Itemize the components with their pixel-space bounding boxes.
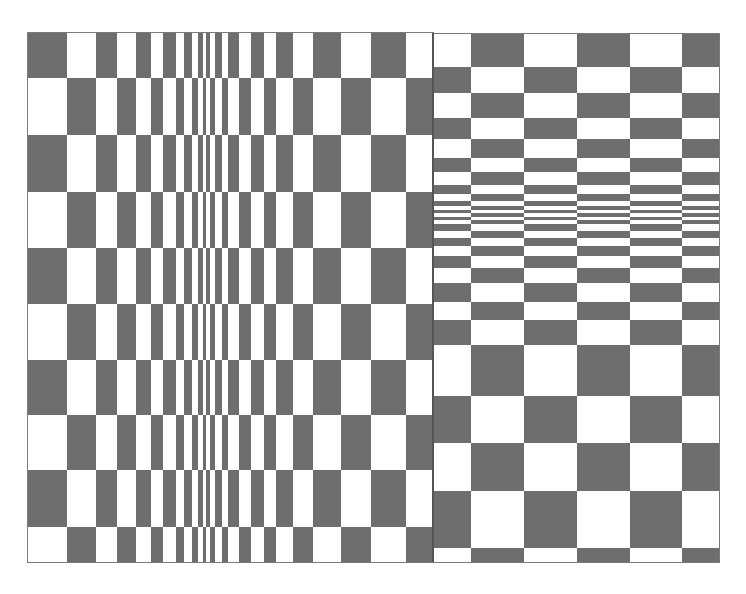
checker-cell	[117, 78, 136, 135]
right-checkerboard-panel	[433, 34, 719, 562]
checker-cell	[682, 34, 719, 67]
checker-cell	[206, 248, 210, 304]
checker-cell	[293, 415, 313, 470]
checker-cell	[682, 345, 719, 396]
checker-cell	[577, 213, 630, 217]
checker-cell	[176, 527, 184, 562]
checker-cell	[577, 220, 630, 224]
checker-cell	[67, 415, 96, 470]
checker-cell	[371, 33, 406, 78]
checker-cell	[682, 213, 719, 217]
checker-cell	[210, 192, 215, 248]
checker-cell	[471, 220, 524, 224]
checker-cell	[251, 135, 264, 192]
checker-cell	[471, 268, 524, 283]
checker-cell	[136, 135, 151, 192]
checker-cell	[184, 360, 192, 415]
checker-cell	[293, 304, 313, 360]
checker-cell	[228, 470, 239, 527]
checker-cell	[433, 256, 471, 268]
checker-cell	[192, 304, 198, 360]
checker-cell	[524, 210, 577, 213]
checker-cell	[471, 231, 524, 238]
checker-cell	[313, 135, 341, 192]
checker-cell	[239, 192, 251, 248]
checker-cell	[433, 185, 471, 194]
checker-cell	[471, 34, 524, 67]
checker-cell	[239, 304, 251, 360]
checker-cell	[524, 201, 577, 206]
checker-cell	[28, 360, 67, 415]
checker-cell	[471, 206, 524, 210]
checker-cell	[276, 248, 293, 304]
checker-cell	[630, 185, 682, 194]
checker-cell	[151, 415, 163, 470]
checker-cell	[682, 268, 719, 283]
checker-cell	[136, 33, 151, 78]
checker-cell	[222, 527, 228, 562]
checker-cell	[471, 93, 524, 118]
checker-cell	[136, 360, 151, 415]
checker-cell	[524, 396, 577, 443]
checker-cell	[577, 302, 630, 320]
checker-cell	[96, 470, 117, 527]
checker-cell	[222, 192, 228, 248]
checker-cell	[222, 78, 228, 135]
checker-cell	[433, 118, 471, 139]
checker-cell	[203, 304, 206, 360]
checker-cell	[341, 415, 371, 470]
checker-cell	[222, 304, 228, 360]
checker-cell	[206, 470, 210, 527]
checker-cell	[682, 231, 719, 238]
checker-cell	[228, 33, 239, 78]
checker-cell	[630, 118, 682, 139]
checker-cell	[630, 224, 682, 231]
checker-cell	[577, 194, 630, 201]
checker-cell	[151, 192, 163, 248]
checker-cell	[471, 443, 524, 491]
checker-cell	[630, 67, 682, 93]
checker-cell	[293, 78, 313, 135]
checker-cell	[215, 33, 222, 78]
checker-cell	[151, 527, 163, 562]
checker-cell	[371, 248, 406, 304]
checker-cell	[264, 78, 276, 135]
checker-cell	[433, 320, 471, 345]
checker-cell	[341, 78, 371, 135]
checker-cell	[198, 33, 203, 78]
checker-cell	[184, 33, 192, 78]
checker-cell	[67, 304, 96, 360]
checker-cell	[630, 158, 682, 172]
checker-cell	[206, 135, 210, 192]
checker-cell	[28, 248, 67, 304]
checker-cell	[406, 415, 433, 470]
checker-cell	[206, 360, 210, 415]
checker-cell	[471, 548, 524, 562]
checker-cell	[198, 360, 203, 415]
checker-cell	[163, 248, 176, 304]
checker-cell	[96, 33, 117, 78]
checker-cell	[577, 139, 630, 158]
checker-cell	[433, 491, 471, 548]
checker-cell	[577, 231, 630, 238]
checker-cell	[524, 185, 577, 194]
checker-cell	[433, 158, 471, 172]
checker-cell	[163, 360, 176, 415]
checker-cell	[524, 118, 577, 139]
checker-cell	[206, 33, 210, 78]
checker-cell	[406, 527, 433, 562]
checker-cell	[117, 415, 136, 470]
checker-cell	[577, 548, 630, 562]
checker-cell	[136, 248, 151, 304]
checker-cell	[371, 470, 406, 527]
checker-cell	[293, 527, 313, 562]
checker-cell	[313, 248, 341, 304]
checker-cell	[524, 283, 577, 302]
checker-cell	[239, 527, 251, 562]
checker-cell	[341, 527, 371, 562]
checker-cell	[239, 78, 251, 135]
panel-divider	[432, 33, 434, 562]
checker-cell	[577, 172, 630, 185]
checker-cell	[577, 345, 630, 396]
checker-cell	[203, 415, 206, 470]
